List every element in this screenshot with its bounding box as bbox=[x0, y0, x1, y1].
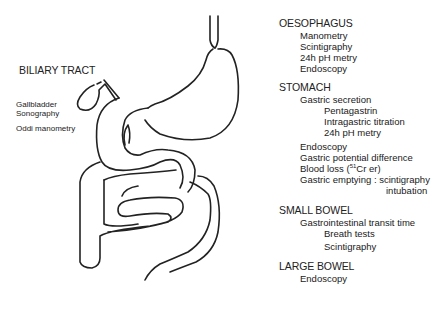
oddi-manometry-label: Oddi manometry bbox=[16, 125, 75, 133]
stomach-heading: STOMACH bbox=[279, 82, 331, 93]
oesophagus-item: Scintigraphy bbox=[300, 42, 352, 52]
oesophagus-item: Manometry bbox=[300, 31, 348, 41]
stomach-subitem: Pentagastrin bbox=[324, 106, 377, 116]
small-bowel-heading: SMALL BOWEL bbox=[279, 205, 353, 216]
oesophagus-shape bbox=[210, 16, 218, 48]
isotope-rest: Cr er) bbox=[356, 163, 380, 174]
sonography-label: Sonography bbox=[16, 110, 59, 118]
stomach-item: Gastric potential difference bbox=[300, 153, 413, 163]
small-bowel-subitem: Scintigraphy bbox=[324, 242, 376, 252]
small-bowel-item: Gastrointestinal transit time bbox=[300, 218, 415, 228]
stomach-shape bbox=[148, 49, 213, 108]
gallbladder-label: Gallbladder bbox=[16, 101, 57, 109]
blood-loss-text: Blood loss ( bbox=[300, 163, 350, 174]
large-bowel-item: Endoscopy bbox=[300, 274, 347, 284]
oesophagus-item: 24h pH metry bbox=[300, 53, 357, 63]
oesophagus-item: Endoscopy bbox=[300, 64, 347, 74]
stomach-subitem: 24h pH metry bbox=[324, 128, 381, 138]
gastric-emptying-label: Gastric emptying : scintigraphy bbox=[300, 175, 430, 185]
gallbladder-shape bbox=[78, 80, 120, 110]
blood-loss-label: Blood loss (51Cr er) bbox=[300, 164, 381, 174]
gastric-secretion-label: Gastric secretion bbox=[300, 95, 371, 105]
gastric-emptying-alt: intubation bbox=[386, 186, 427, 196]
biliary-tract-heading: BILIARY TRACT bbox=[19, 65, 95, 76]
large-bowel-heading: LARGE BOWEL bbox=[279, 261, 354, 272]
small-bowel-shape bbox=[80, 162, 183, 268]
stomach-item: Endoscopy bbox=[300, 142, 347, 152]
small-bowel-subitem: Breath tests bbox=[324, 229, 375, 239]
duodenum-shape bbox=[97, 98, 183, 188]
oesophagus-heading: OESOPHAGUS bbox=[279, 18, 353, 29]
stomach-subitem: Intragastric titration bbox=[324, 117, 405, 127]
